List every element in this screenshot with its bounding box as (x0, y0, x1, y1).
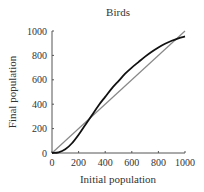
x-tick-label: 1000 (175, 157, 195, 168)
plot-series (52, 31, 185, 153)
y-tick-label: 600 (32, 74, 47, 85)
y-tick-label: 800 (32, 50, 47, 61)
x-tick-label: 400 (98, 157, 113, 168)
x-axis-label: Initial population (80, 173, 157, 185)
population-curve (52, 36, 185, 153)
x-tick-label: 200 (71, 157, 86, 168)
y-tick-label: 0 (42, 148, 47, 159)
chart: Birds 0200400600800100002004006008001000… (0, 0, 204, 192)
y-tick-label: 200 (32, 123, 47, 134)
x-tick-label: 0 (50, 157, 55, 168)
y-tick-label: 400 (32, 99, 47, 110)
axes: 0200400600800100002004006008001000 (27, 26, 195, 169)
identity-line (52, 31, 185, 153)
chart-title: Birds (106, 6, 130, 18)
x-tick-label: 800 (151, 157, 166, 168)
y-axis-label: Final population (6, 55, 18, 128)
y-tick-label: 1000 (27, 26, 47, 37)
x-tick-label: 600 (124, 157, 139, 168)
